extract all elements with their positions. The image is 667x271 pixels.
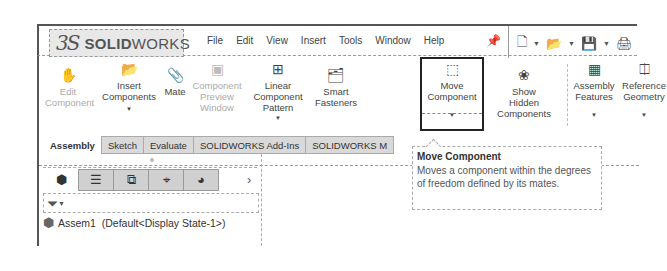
divider xyxy=(43,167,257,168)
move-component-icon: ⬚ xyxy=(422,60,482,78)
display-manager-icon[interactable]: ◕ xyxy=(183,169,219,191)
label: Components xyxy=(102,91,156,102)
solidworks-logo[interactable]: 3S SOLIDWORKS xyxy=(49,29,184,57)
solidworks-window: 3S SOLIDWORKS File Edit View Insert Tool… xyxy=(37,24,637,246)
tab-evaluate[interactable]: Evaluate xyxy=(143,136,194,154)
label: Assembly xyxy=(573,80,614,91)
label: Mate xyxy=(164,86,185,97)
smart-fasteners-icon: 🗂 xyxy=(312,66,360,84)
label: Component xyxy=(253,91,302,102)
insert-components-icon: 📂 xyxy=(99,60,159,78)
tree-root-label: Assem1 (Default<Display State-1>) xyxy=(58,217,226,229)
label: Hidden xyxy=(509,97,539,108)
panel-grip-handle[interactable] xyxy=(150,158,154,162)
menu-edit[interactable]: Edit xyxy=(236,35,253,46)
chevron-right-icon[interactable]: › xyxy=(247,172,251,187)
filter-field[interactable]: ⏷▼ xyxy=(43,193,259,213)
menu-bar: 3S SOLIDWORKS File Edit View Insert Tool… xyxy=(37,24,637,56)
preview-window-icon: ▣ xyxy=(189,60,245,78)
tab-sketch[interactable]: Sketch xyxy=(101,136,144,154)
assembly-features-icon: ▦ xyxy=(570,60,618,78)
label: Smart xyxy=(323,86,348,97)
edit-component-icon: ✋ xyxy=(45,66,91,84)
menu-view[interactable]: View xyxy=(266,35,288,46)
tooltip-body: Moves a component within the degrees of … xyxy=(417,164,597,190)
dimxpert-icon[interactable]: ⌖ xyxy=(148,169,184,191)
separator xyxy=(508,26,509,58)
move-component-button[interactable]: ⬚ Move Component ▼ xyxy=(422,60,482,121)
save-icon[interactable]: 💾 xyxy=(581,36,597,51)
tab-solidworks-mbd[interactable]: SOLIDWORKS M xyxy=(305,136,394,154)
manager-tabs: ⬢ ☰ ⧉ ⌖ ◕ xyxy=(43,169,218,191)
edit-component-button[interactable]: ✋ Edit Component xyxy=(45,66,91,108)
mate-button[interactable]: 📎 Mate xyxy=(161,66,189,97)
menu-file[interactable]: File xyxy=(207,35,223,46)
label: Linear xyxy=(265,80,291,91)
show-hidden-components-button[interactable]: ❀ Show Hidden Components xyxy=(493,66,555,119)
smart-fasteners-button[interactable]: 🗂 Smart Fasteners xyxy=(312,66,360,108)
menu-insert[interactable]: Insert xyxy=(301,35,326,46)
quick-access-toolbar: 🗋▼ 📂▼ 💾▼ 🖨 xyxy=(517,32,633,54)
ds-logo-icon: 3S xyxy=(56,31,78,55)
tooltip-title: Move Component xyxy=(417,150,597,163)
menu-tools[interactable]: Tools xyxy=(339,35,362,46)
open-folder-icon[interactable]: 📂 xyxy=(546,36,562,51)
insert-components-button[interactable]: 📂 Insert Components ▼ xyxy=(99,60,159,115)
chevron-down-icon[interactable]: ▼ xyxy=(422,110,482,121)
mate-paperclip-icon: 📎 xyxy=(161,66,189,84)
move-component-tooltip: Move Component Moves a component within … xyxy=(412,146,602,210)
logo-solid: SOLID xyxy=(84,35,131,52)
linear-component-pattern-button[interactable]: ⊞ Linear Component Pattern ▼ xyxy=(249,60,307,124)
chevron-down-icon[interactable]: ▼ xyxy=(570,110,618,121)
feature-manager-icon[interactable]: ⬢ xyxy=(43,169,79,191)
label: Pattern xyxy=(263,102,294,113)
label: Edit xyxy=(60,86,76,97)
property-manager-icon[interactable]: ☰ xyxy=(78,169,114,191)
new-dropdown-icon[interactable]: ▼ xyxy=(533,40,540,47)
menu-window[interactable]: Window xyxy=(375,35,411,46)
filter-dropdown-icon[interactable]: ▼ xyxy=(58,200,65,207)
command-manager-ribbon: ✋ Edit Component 📂 Insert Components ▼ 📎… xyxy=(37,56,637,134)
configuration-manager-icon[interactable]: ⧉ xyxy=(113,169,149,191)
open-dropdown-icon[interactable]: ▼ xyxy=(568,40,575,47)
chevron-down-icon[interactable]: ▼ xyxy=(620,110,667,121)
label: Show xyxy=(512,86,536,97)
label: Component xyxy=(45,97,94,108)
assembly-features-button[interactable]: ▦ Assembly Features ▼ xyxy=(570,60,618,121)
label: Components xyxy=(497,108,551,119)
pin-icon[interactable]: 📌 xyxy=(486,34,501,48)
menu-items: File Edit View Insert Tools Window Help xyxy=(207,35,457,46)
label: Reference xyxy=(622,80,666,91)
label: Insert xyxy=(117,80,141,91)
logo-works: WORKS xyxy=(132,35,190,52)
new-document-icon[interactable]: 🗋 xyxy=(517,32,527,54)
logo-text: SOLIDWORKS xyxy=(84,35,190,52)
tab-solidworks-add-ins[interactable]: SOLIDWORKS Add-Ins xyxy=(193,136,306,154)
label: Features xyxy=(575,91,613,102)
filter-icon[interactable]: ⏷ xyxy=(47,195,58,211)
label: Geometry xyxy=(623,91,665,102)
print-icon[interactable]: 🖨 xyxy=(616,36,633,51)
reference-geometry-icon: ⎅ xyxy=(620,60,667,78)
tab-assembly[interactable]: Assembly xyxy=(43,136,102,154)
chevron-down-icon[interactable]: ▼ xyxy=(99,104,159,115)
ribbon-separator xyxy=(567,64,568,126)
save-dropdown-icon[interactable]: ▼ xyxy=(603,40,610,47)
label: Component xyxy=(427,91,476,102)
chevron-down-icon[interactable]: ▼ xyxy=(249,113,307,124)
assembly-icon: ⬢ xyxy=(43,215,54,230)
linear-pattern-icon: ⊞ xyxy=(249,60,307,78)
component-preview-window-button[interactable]: ▣ Component Preview Window xyxy=(189,60,245,113)
label: Component xyxy=(192,80,241,91)
menu-help[interactable]: Help xyxy=(424,35,445,46)
label: Window xyxy=(200,102,234,113)
label: Move xyxy=(440,80,463,91)
feature-tree-root[interactable]: ⬢ Assem1 (Default<Display State-1>) xyxy=(43,215,226,230)
show-hidden-icon: ❀ xyxy=(493,66,555,84)
feature-manager-panel: ⬢ ☰ ⧉ ⌖ ◕ › ⏷▼ ⬢ Assem1 (Default<Display… xyxy=(37,154,262,246)
label: Fasteners xyxy=(315,97,357,108)
reference-geometry-button[interactable]: ⎅ Reference Geometry ▼ xyxy=(620,60,667,121)
label: Preview xyxy=(200,91,234,102)
